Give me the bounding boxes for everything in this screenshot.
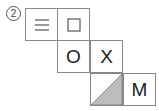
face-square	[57, 8, 90, 41]
face-m: M	[123, 73, 156, 106]
shaded-triangle-icon	[91, 74, 122, 105]
three-lines-icon	[32, 17, 52, 33]
face-o: O	[57, 40, 90, 73]
face-x: X	[90, 40, 123, 73]
face-triangle	[90, 73, 123, 106]
square-icon	[67, 18, 81, 32]
face-lines	[25, 8, 58, 41]
figure-number-label: 2	[6, 6, 21, 21]
